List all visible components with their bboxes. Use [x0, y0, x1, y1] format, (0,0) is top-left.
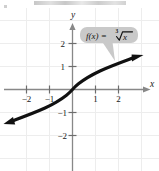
- y-axis-arrowhead: [69, 23, 75, 30]
- x-tick-label-2: 2: [116, 94, 121, 104]
- x-axis-label: x: [149, 79, 155, 89]
- y-tick-label-2: 2: [61, 39, 66, 49]
- x-tick-label-neg2: −2: [22, 94, 32, 104]
- y-tick-label-1: 1: [61, 62, 66, 72]
- callout-tail: [103, 42, 115, 61]
- y-tick-label-neg2: −2: [57, 131, 67, 141]
- callout-radical-index: 3: [116, 28, 119, 34]
- figure-screenshot: −2 −1 1 2 2 1 −1 −2 x y f(x) = 3 x: [0, 0, 159, 171]
- y-axis-label: y: [70, 10, 76, 20]
- x-tick-label-1: 1: [93, 94, 98, 104]
- cube-root-graph: −2 −1 1 2 2 1 −1 −2 x y f(x) = 3 x: [0, 0, 159, 171]
- callout-expression-prefix: f(x) =: [86, 31, 107, 41]
- curve-left-arrowhead: [4, 117, 16, 125]
- callout-radicand: x: [122, 32, 127, 42]
- y-tick-label-neg1: −1: [57, 108, 67, 118]
